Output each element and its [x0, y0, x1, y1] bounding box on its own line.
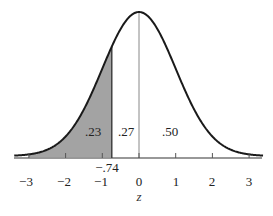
tick-label-3: 3	[246, 174, 253, 189]
tick-label-2: 2	[209, 174, 216, 189]
tick-label-neg3: −3	[19, 174, 33, 189]
shaded-left-tail	[29, 46, 112, 157]
axis-label-z: z	[135, 189, 141, 204]
tick-label-0: 0	[136, 174, 143, 189]
tick-label-neg2: −2	[57, 174, 71, 189]
normal-curve-diagram: .23 .27 .50 −.74 −3 −2 −1 0 1 2 3 z	[0, 0, 273, 216]
area-label-middle: .27	[118, 124, 135, 139]
marker-label: −.74	[95, 160, 119, 175]
area-label-left-tail: .23	[85, 124, 101, 139]
area-label-right-half: .50	[162, 124, 178, 139]
tick-label-1: 1	[173, 174, 180, 189]
tick-label-neg1: −1	[94, 174, 108, 189]
